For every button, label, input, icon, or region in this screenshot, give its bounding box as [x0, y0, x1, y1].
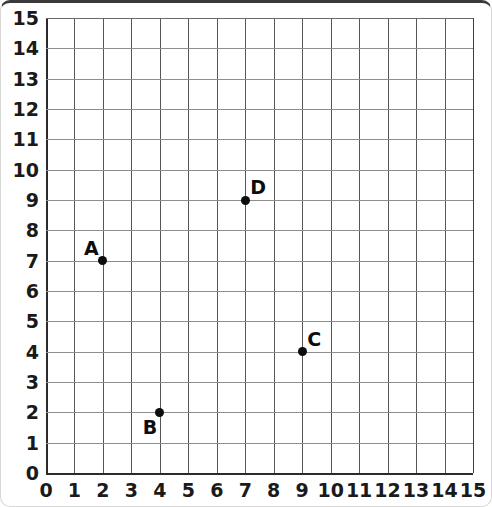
point-label-a: A — [84, 239, 99, 258]
point-label-b: B — [143, 418, 157, 437]
y-axis-tick-labels: 0123456789101112131415 — [1, 18, 39, 473]
y-tick-label-3: 3 — [5, 373, 39, 392]
gridline-horizontal-13 — [46, 79, 473, 80]
plot-area: ABCD — [46, 18, 473, 473]
gridline-horizontal-5 — [46, 321, 473, 322]
gridline-vertical-11 — [359, 18, 360, 473]
gridline-vertical-6 — [217, 18, 218, 473]
y-tick-label-8: 8 — [5, 221, 39, 240]
gridline-vertical-1 — [74, 18, 75, 473]
y-tick-label-4: 4 — [5, 342, 39, 361]
point-label-d: D — [250, 178, 266, 197]
gridline-vertical-7 — [245, 18, 246, 473]
y-tick-label-2: 2 — [5, 403, 39, 422]
gridline-vertical-0 — [46, 18, 48, 473]
gridline-horizontal-9 — [46, 200, 473, 201]
gridline-horizontal-15 — [46, 18, 473, 19]
y-tick-label-5: 5 — [5, 312, 39, 331]
gridline-vertical-8 — [274, 18, 275, 473]
point-label-c: C — [307, 330, 321, 349]
coordinate-grid-card: ABCD 0123456789101112131415 012345678910… — [0, 0, 492, 507]
gridline-horizontal-14 — [46, 48, 473, 49]
y-tick-label-10: 10 — [5, 160, 39, 179]
gridline-horizontal-7 — [46, 261, 473, 262]
y-tick-label-13: 13 — [5, 69, 39, 88]
y-tick-label-12: 12 — [5, 100, 39, 119]
gridline-horizontal-0 — [46, 473, 473, 475]
y-tick-label-11: 11 — [5, 130, 39, 149]
gridline-vertical-5 — [188, 18, 189, 473]
gridline-vertical-4 — [160, 18, 161, 473]
data-point-a[interactable] — [98, 256, 107, 265]
data-point-c[interactable] — [298, 347, 307, 356]
gridline-vertical-2 — [103, 18, 104, 473]
gridline-vertical-12 — [388, 18, 389, 473]
gridline-horizontal-11 — [46, 139, 473, 140]
gridline-horizontal-12 — [46, 109, 473, 110]
y-tick-label-9: 9 — [5, 191, 39, 210]
gridline-vertical-9 — [302, 18, 303, 473]
y-tick-label-15: 15 — [5, 9, 39, 28]
gridline-horizontal-8 — [46, 230, 473, 231]
data-point-d[interactable] — [241, 196, 250, 205]
y-tick-label-7: 7 — [5, 251, 39, 270]
y-tick-label-6: 6 — [5, 282, 39, 301]
gridline-vertical-13 — [416, 18, 417, 473]
gridline-horizontal-3 — [46, 382, 473, 383]
gridline-horizontal-4 — [46, 352, 473, 353]
x-axis-tick-labels: 0123456789101112131415 — [46, 481, 473, 505]
y-tick-label-1: 1 — [5, 433, 39, 452]
gridline-horizontal-10 — [46, 170, 473, 171]
y-tick-label-0: 0 — [5, 464, 39, 483]
gridline-vertical-10 — [331, 18, 332, 473]
gridline-vertical-15 — [473, 18, 474, 473]
x-tick-label-15: 15 — [453, 481, 492, 500]
y-tick-label-14: 14 — [5, 39, 39, 58]
gridline-horizontal-6 — [46, 291, 473, 292]
gridline-horizontal-2 — [46, 412, 473, 413]
gridline-horizontal-1 — [46, 443, 473, 444]
gridline-vertical-14 — [445, 18, 446, 473]
gridline-vertical-3 — [131, 18, 132, 473]
